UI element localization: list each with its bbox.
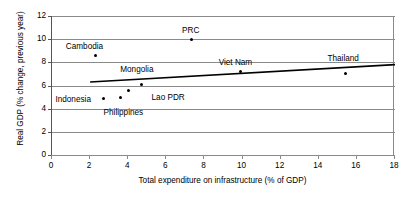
x-tick-mark bbox=[89, 155, 90, 159]
y-tick-label: 4 bbox=[30, 105, 46, 113]
y-tick-label: 8 bbox=[30, 58, 46, 66]
y-tick-mark bbox=[48, 86, 52, 87]
x-tick-label: 10 bbox=[232, 161, 252, 170]
y-tick-mark bbox=[48, 109, 52, 110]
x-tick-mark bbox=[51, 155, 52, 159]
x-axis-line bbox=[51, 155, 395, 156]
y-tick-mark bbox=[48, 39, 52, 40]
y-tick-mark bbox=[48, 62, 52, 63]
y-tick-label: 12 bbox=[30, 12, 46, 20]
data-label-thailand: Thailand bbox=[327, 54, 358, 63]
x-tick-mark bbox=[280, 155, 281, 159]
data-point-cambodia bbox=[94, 54, 97, 57]
y-tick-label: 2 bbox=[30, 128, 46, 136]
x-tick-mark bbox=[242, 155, 243, 159]
y-tick-label: 10 bbox=[30, 35, 46, 43]
x-tick-mark bbox=[165, 155, 166, 159]
x-tick-mark bbox=[318, 155, 319, 159]
chart-figure: Real GDP (% change, previous year) Total… bbox=[0, 0, 416, 197]
x-tick-label: 12 bbox=[270, 161, 290, 170]
data-label-viet-nam: Viet Nam bbox=[219, 58, 253, 67]
x-tick-label: 6 bbox=[155, 161, 175, 170]
x-tick-label: 16 bbox=[346, 161, 366, 170]
x-tick-label: 0 bbox=[41, 161, 61, 170]
plot-area: 024681012 CambodiaPRCIndonesiaPhilippine… bbox=[51, 16, 394, 155]
x-tick-mark bbox=[127, 155, 128, 159]
gridline bbox=[52, 39, 395, 40]
data-label-indonesia: Indonesia bbox=[55, 95, 91, 104]
x-tick-mark bbox=[356, 155, 357, 159]
y-tick-mark bbox=[48, 132, 52, 133]
x-tick-mark bbox=[203, 155, 204, 159]
x-axis-label: Total expenditure on infrastructure (% o… bbox=[51, 176, 394, 185]
data-point-mongolia bbox=[127, 89, 130, 92]
x-tick-mark bbox=[394, 155, 395, 159]
data-label-prc: PRC bbox=[182, 26, 199, 35]
gridline bbox=[52, 132, 395, 133]
y-tick-mark bbox=[48, 16, 52, 17]
data-label-mongolia: Mongolia bbox=[120, 65, 153, 74]
y-axis-label: Real GDP (% change, previous year) bbox=[16, 0, 25, 159]
data-point-indonesia bbox=[102, 97, 105, 100]
data-point-viet-nam bbox=[239, 70, 242, 73]
data-label-cambodia: Cambodia bbox=[66, 42, 103, 51]
x-tick-label: 18 bbox=[384, 161, 404, 170]
data-label-philippines: Philippines bbox=[104, 108, 144, 117]
data-label-lao-pdr: Lao PDR bbox=[152, 93, 185, 102]
data-point-thailand bbox=[344, 72, 347, 75]
data-point-prc bbox=[190, 38, 193, 41]
gridline bbox=[52, 86, 395, 87]
x-tick-label: 4 bbox=[117, 161, 137, 170]
x-tick-label: 8 bbox=[193, 161, 213, 170]
y-tick-label: 6 bbox=[30, 82, 46, 90]
x-tick-label: 2 bbox=[79, 161, 99, 170]
x-tick-label: 14 bbox=[308, 161, 328, 170]
y-tick-label: 0 bbox=[30, 151, 46, 159]
data-point-philippines bbox=[119, 96, 122, 99]
gridline bbox=[52, 16, 395, 17]
